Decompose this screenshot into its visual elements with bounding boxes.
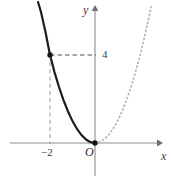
marked-point-minus2-4 bbox=[47, 52, 52, 57]
parabola-figure: y x 4 −2 O bbox=[0, 0, 172, 178]
x-axis-arrowhead bbox=[157, 140, 163, 147]
x-axis-label: x bbox=[161, 150, 166, 162]
x-tick-label-minus2: −2 bbox=[41, 147, 53, 158]
y-axis-label: y bbox=[83, 4, 88, 16]
origin-label: O bbox=[85, 146, 94, 158]
parabola-dotted-branch bbox=[95, 7, 151, 143]
y-axis-arrowhead bbox=[92, 5, 99, 11]
y-tick-label-4: 4 bbox=[102, 49, 108, 60]
parabola-solid-branch bbox=[38, 2, 95, 143]
